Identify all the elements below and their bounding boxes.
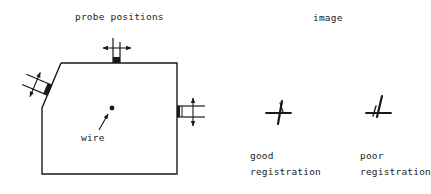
good-registration-icon [266,101,291,124]
poor-registration-icon [366,96,391,117]
wire-dot [110,106,115,111]
wire-pointer-arrow [99,114,108,130]
poor-label-line2: registration [360,166,431,177]
good-label-line2: registration [250,166,321,177]
wire-label: wire [81,132,105,143]
image-title: image [313,12,343,23]
top-probe-icon [103,38,131,63]
chamber-outline [42,63,177,174]
probe-positions-title: probe positions [75,11,164,22]
left-probe-icon [19,68,55,103]
good-label-line1: good [250,150,321,161]
poor-registration-label: poor registration [360,150,431,177]
good-registration-label: good registration [250,150,321,177]
poor-label-line1: poor [360,150,431,161]
right-probe-icon [177,98,205,126]
